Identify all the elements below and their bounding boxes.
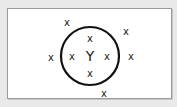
boundary-diagram: Y xxxx xxxxx	[0, 0, 177, 107]
outside-x-mark: x	[123, 26, 129, 37]
outside-x-mark: x	[64, 17, 70, 28]
diagram-canvas: Y xxxx xxxxx	[0, 0, 177, 107]
inside-x-mark: x	[104, 51, 110, 62]
center-label-y: Y	[85, 48, 95, 64]
outside-x-mark: x	[101, 88, 107, 99]
inside-x-mark: x	[69, 51, 75, 62]
outside-x-mark: x	[48, 52, 54, 63]
outside-x-mark: x	[128, 51, 134, 62]
inside-x-mark: x	[87, 33, 93, 44]
inside-x-mark: x	[87, 68, 93, 79]
